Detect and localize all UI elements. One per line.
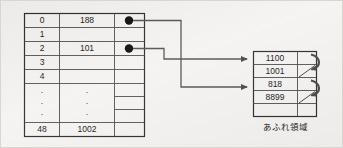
bucket-row-1-index: 1: [40, 29, 45, 39]
link-bucket2-to-overflow1[interactable]: [133, 49, 247, 60]
overflow-row-0-key: 1100: [266, 53, 285, 63]
overflow-area-caption: あふれ領域: [263, 122, 308, 132]
bucket-row-6-index: ·: [41, 98, 44, 108]
bucket-row-6-key: ·: [86, 98, 89, 108]
bucket-row-7-index: ·: [41, 109, 44, 119]
pointer-links: [133, 21, 247, 88]
figure-container: 0 188 1 2 101 3 4 · · · · · · 48 1002: [0, 0, 343, 148]
overflow-row-2-key: 818: [268, 79, 282, 89]
overflow-row-3-key: 8899: [266, 92, 285, 102]
bucket-row-5-index: ·: [41, 87, 44, 97]
bucket-row-2-key: 101: [80, 43, 94, 53]
hash-table-overflow-diagram: 0 188 1 2 101 3 4 · · · · · · 48 1002: [1, 1, 343, 148]
bucket-row-8-key: 1002: [78, 124, 97, 134]
bucket-row-4-index: 4: [40, 71, 45, 81]
bucket-row-3-index: 3: [40, 57, 45, 67]
bucket-row-7-key: ·: [86, 109, 89, 119]
bucket-row-0-pointer-dot[interactable]: [125, 16, 133, 24]
bucket-row-8-index: 48: [37, 124, 47, 134]
overflow-row-3-chain-slash: [299, 92, 315, 104]
bucket-row-2-index: 2: [40, 43, 45, 53]
overflow-row-1-chain-slash: [299, 66, 315, 78]
bucket-row-5-key: ·: [86, 87, 89, 97]
bucket-table: 0 188 1 2 101 3 4 · · · · · · 48 1002: [25, 14, 145, 137]
bucket-row-0-key: 188: [80, 15, 94, 25]
bucket-row-0-index: 0: [40, 15, 45, 25]
link-bucket0-to-overflow3[interactable]: [133, 21, 247, 88]
overflow-table-outer-border: [254, 52, 317, 117]
bucket-row-2-pointer-dot[interactable]: [125, 44, 133, 52]
overflow-row-1-key: 1001: [266, 66, 285, 76]
overflow-area-table: 1100 1001 818 8899 あふれ領域: [254, 52, 319, 132]
